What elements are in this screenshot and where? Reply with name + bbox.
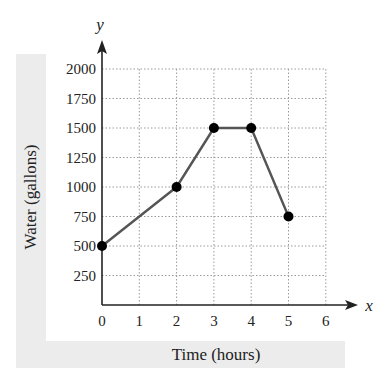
x-axis-variable: x [364, 296, 373, 315]
line-chart: 0123456 25050075010001250150017502000 y … [0, 0, 384, 372]
data-point-marker [209, 123, 219, 133]
x-axis-title: Time (hours) [172, 345, 261, 364]
data-point-marker [284, 212, 294, 222]
data-point-marker [172, 182, 182, 192]
y-tick-label: 250 [74, 268, 97, 284]
x-tick-label: 1 [136, 313, 144, 329]
y-tick-label: 1500 [66, 120, 96, 136]
x-tick-label: 6 [322, 313, 330, 329]
x-tick-label: 5 [285, 313, 293, 329]
x-tick-labels: 0123456 [98, 313, 330, 329]
data-point-marker [97, 241, 107, 251]
y-tick-label: 500 [74, 238, 97, 254]
grid-lines [102, 69, 326, 305]
data-point-marker [246, 123, 256, 133]
x-tick-label: 2 [173, 313, 181, 329]
y-axis-title: Water (gallons) [21, 145, 40, 250]
y-tick-label: 1250 [66, 150, 96, 166]
y-tick-label: 2000 [66, 61, 96, 77]
y-tick-labels: 25050075010001250150017502000 [66, 61, 96, 284]
x-tick-label: 3 [210, 313, 218, 329]
axes [97, 40, 358, 310]
x-tick-label: 0 [98, 313, 106, 329]
y-tick-label: 1000 [66, 179, 96, 195]
x-tick-label: 4 [247, 313, 255, 329]
y-tick-label: 1750 [66, 91, 96, 107]
y-axis-variable: y [94, 15, 104, 34]
y-tick-label: 750 [74, 209, 97, 225]
